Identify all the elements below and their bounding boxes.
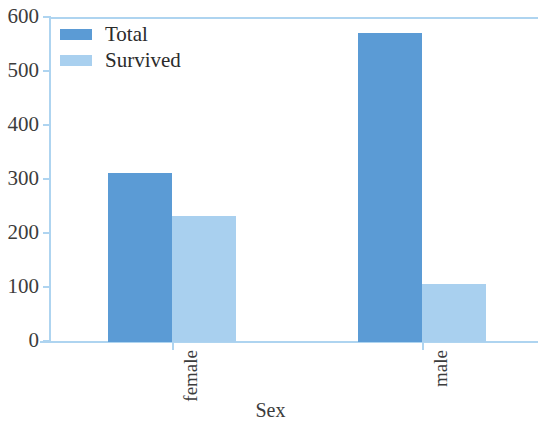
bar-chart: 0100200300400500600 femalemale TotalSurv… <box>0 0 541 424</box>
legend-swatch-icon <box>60 29 92 40</box>
x-tick-label-male: male <box>431 350 450 387</box>
legend-item: Total <box>60 21 181 47</box>
x-tick-mark <box>172 341 174 350</box>
bar-male-survived <box>422 284 486 342</box>
bar-female-total <box>108 173 172 342</box>
x-axis-title: Sex <box>0 400 541 420</box>
bar-male-total <box>358 33 422 342</box>
bar-female-survived <box>172 216 236 342</box>
legend-swatch-icon <box>60 55 92 66</box>
legend-label: Total <box>105 24 148 45</box>
legend-label: Survived <box>105 50 181 71</box>
x-tick-label-female: female <box>181 350 200 402</box>
chart-legend: TotalSurvived <box>60 21 181 73</box>
x-tick-mark <box>422 341 424 350</box>
legend-item: Survived <box>60 47 181 73</box>
